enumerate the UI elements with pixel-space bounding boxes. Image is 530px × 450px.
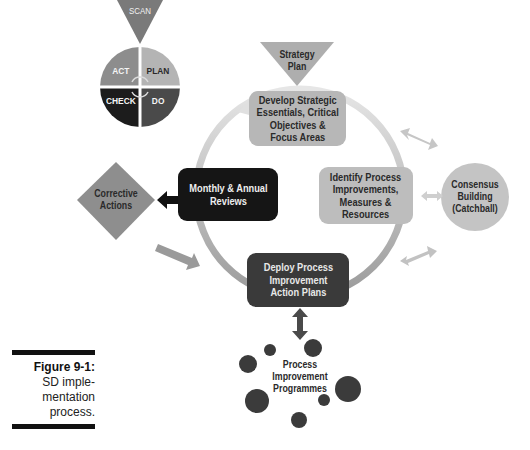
consensus-line1: Consensus xyxy=(449,179,502,191)
monthly-annual-reviews-box: Monthly & Annual Reviews xyxy=(178,168,278,221)
programmes-line1: Process xyxy=(270,359,330,371)
caption-line2: mentation xyxy=(12,390,95,405)
reviews-box-text: Monthly & Annual Reviews xyxy=(189,182,267,207)
figure-caption: Figure 9-1: SD imple- mentation process. xyxy=(12,360,95,420)
caption-title: Figure 9-1: xyxy=(12,360,95,375)
corrective-line1: Corrective xyxy=(88,188,144,200)
caption-bottom-rule xyxy=(12,424,95,429)
develop-strategic-essentials-box: Develop Strategic Essentials, Critical O… xyxy=(249,91,346,146)
develop-box-text: Develop Strategic Essentials, Critical O… xyxy=(256,94,338,144)
vertical-double-arrow-icon xyxy=(292,308,308,340)
caption-line3: process. xyxy=(12,405,95,420)
process-improvement-programmes-label: Process Improvement Programmes xyxy=(270,359,330,395)
corrective-actions-label: Corrective Actions xyxy=(88,188,144,212)
consensus-line2: Building xyxy=(449,191,502,203)
pdca-check-label: CHECK xyxy=(106,95,136,106)
strategy-plan-line1: Strategy xyxy=(275,49,319,61)
arrow-left-icon xyxy=(157,191,178,209)
scan-label: SCAN xyxy=(124,5,156,17)
pdca-plan-label: PLAN xyxy=(147,65,170,76)
caption-top-rule xyxy=(12,350,95,355)
identify-box-text: Identify Process Improvements, Measures … xyxy=(330,171,401,221)
double-arrow-icon xyxy=(400,128,438,150)
arrow-right-down-icon xyxy=(155,244,200,270)
deploy-action-plans-box: Deploy Process Improvement Action Plans xyxy=(247,253,349,307)
consensus-building-label: Consensus Building (Catchball) xyxy=(449,179,502,215)
deploy-box-text: Deploy Process Improvement Action Plans xyxy=(263,261,332,299)
caption-line1: SD imple- xyxy=(12,375,95,390)
consensus-line3: (Catchball) xyxy=(449,203,502,215)
pdca-do-label: DO xyxy=(152,95,165,106)
corrective-line2: Actions xyxy=(88,200,144,212)
strategy-plan-label: Strategy Plan xyxy=(275,49,319,73)
double-arrow-icon xyxy=(421,191,443,201)
double-arrow-icon xyxy=(400,246,437,266)
programmes-line3: Programmes xyxy=(270,383,330,395)
identify-process-improvements-box: Identify Process Improvements, Measures … xyxy=(319,167,413,224)
programmes-line2: Improvement xyxy=(270,371,330,383)
strategy-plan-line2: Plan xyxy=(275,61,319,73)
pdca-act-label: ACT xyxy=(112,65,129,76)
sd-implementation-diagram: SCAN ACT PLAN CHECK DO Strategy Plan Dev… xyxy=(0,0,530,450)
